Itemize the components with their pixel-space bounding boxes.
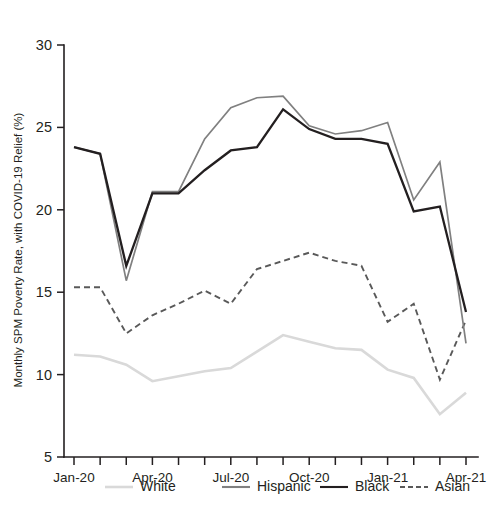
line-chart: Monthly SPM Poverty Rate, with COVID-19 … — [0, 0, 497, 511]
x-axis-ticks — [74, 457, 466, 465]
series-line-hispanic — [74, 96, 466, 343]
x-tick-label: Jan-20 — [53, 470, 94, 485]
y-tick-label: 20 — [36, 202, 52, 218]
legend-label-asian: Asian — [435, 478, 470, 494]
series-line-asian — [74, 253, 466, 380]
legend-label-hispanic: Hispanic — [257, 478, 311, 494]
series-line-white — [74, 335, 466, 414]
figure-container: Monthly SPM Poverty Rate, with COVID-19 … — [0, 0, 497, 511]
y-tick-label: 10 — [36, 367, 52, 383]
y-tick-label: 15 — [36, 284, 52, 300]
y-tick-label: 5 — [44, 449, 52, 465]
x-tick-label: Jul-20 — [212, 470, 249, 485]
series-line-black — [74, 109, 466, 312]
chart-legend: WhiteHispanicBlackAsian — [105, 478, 470, 494]
legend-label-black: Black — [355, 478, 390, 494]
y-tick-label: 30 — [36, 37, 52, 53]
y-axis-title: Monthly SPM Poverty Rate, with COVID-19 … — [12, 112, 24, 387]
series-group — [74, 96, 466, 414]
y-axis-ticks: 30252015105 — [36, 37, 64, 465]
y-tick-label: 25 — [36, 119, 52, 135]
legend-label-white: White — [140, 478, 176, 494]
